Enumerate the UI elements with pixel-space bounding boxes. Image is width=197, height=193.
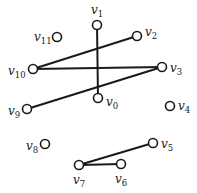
- node-v2: [133, 32, 142, 41]
- node-label-v7: v7: [73, 173, 85, 189]
- node-label-v8: v8: [26, 139, 38, 155]
- node-label-v6: v6: [115, 172, 127, 188]
- node-label-subscript: 2: [152, 31, 157, 41]
- node-label-subscript: 1: [98, 9, 103, 19]
- node-label-v2: v2: [145, 25, 157, 41]
- node-v7: [75, 161, 84, 170]
- edge-v7-v6: [79, 164, 121, 165]
- node-label-v0: v0: [106, 95, 118, 111]
- node-v10: [29, 65, 38, 74]
- node-label-subscript: 3: [177, 67, 182, 77]
- node-label-v11: v11: [34, 30, 52, 46]
- node-label-v10: v10: [8, 64, 26, 80]
- node-label-subscript: 5: [168, 143, 173, 153]
- node-v4: [166, 102, 175, 111]
- node-label-v5: v5: [161, 137, 173, 153]
- node-v3: [158, 63, 167, 72]
- node-label-subscript: 8: [33, 145, 38, 155]
- node-label-v3: v3: [170, 61, 182, 77]
- edge-v7-v5: [79, 143, 153, 165]
- node-label-v1: v1: [91, 3, 103, 19]
- node-v1: [93, 21, 102, 30]
- node-v9: [23, 105, 32, 114]
- node-label-subscript: 4: [185, 105, 190, 115]
- edge-v10-v3: [33, 67, 162, 69]
- node-label-subscript: 11: [41, 36, 52, 46]
- graph-diagram: v0v1v2v3v4v5v6v7v8v9v10v11: [0, 0, 197, 193]
- node-v11: [53, 33, 62, 42]
- node-label-v9: v9: [8, 104, 20, 120]
- node-v8: [41, 140, 50, 149]
- node-v0: [94, 94, 103, 103]
- node-label-subscript: 7: [80, 179, 85, 189]
- node-label-subscript: 6: [122, 178, 127, 188]
- node-label-subscript: 0: [113, 101, 118, 111]
- node-v6: [117, 160, 126, 169]
- node-label-v4: v4: [178, 99, 190, 115]
- node-v5: [149, 139, 158, 148]
- node-label-subscript: 9: [15, 110, 20, 120]
- node-label-subscript: 10: [15, 70, 26, 80]
- edge-v3-v9: [27, 67, 162, 109]
